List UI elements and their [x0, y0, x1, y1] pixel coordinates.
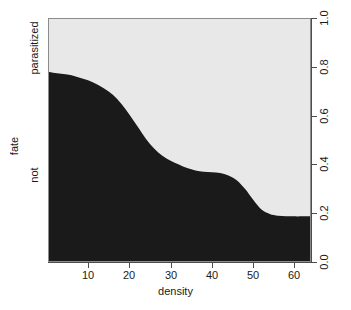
y-right-axis-line: [311, 18, 312, 263]
y-right-axis-tick-label: 0.0: [318, 254, 330, 269]
y-right-axis-tick: [312, 116, 317, 117]
y-right-axis-tick-label: 1.0: [318, 10, 330, 25]
y-right-axis-tick: [312, 213, 317, 214]
y-right-axis-tick: [312, 18, 317, 19]
x-axis-tick: [294, 263, 295, 268]
x-axis-tick: [212, 263, 213, 268]
x-axis-tick-label: 50: [238, 269, 268, 281]
y-left-category-label: parasitized: [28, 21, 40, 74]
x-axis-tick-label: 10: [73, 269, 103, 281]
y-right-axis-tick: [312, 262, 317, 263]
y-right-axis-tick-label: 0.2: [318, 205, 330, 220]
chart-figure: 102030405060 density 0.00.20.40.60.81.0 …: [0, 0, 351, 310]
x-axis-tick-label: 60: [279, 269, 309, 281]
y-right-axis-tick-label: 0.4: [318, 156, 330, 171]
y-right-axis-tick-label: 0.6: [318, 108, 330, 123]
x-axis-tick: [171, 263, 172, 268]
y-right-axis-tick-label: 0.8: [318, 59, 330, 74]
x-axis-tick-label: 20: [114, 269, 144, 281]
x-axis-tick-label: 30: [156, 269, 186, 281]
x-axis-tick: [88, 263, 89, 268]
conditional-density-area-svg: [48, 18, 311, 262]
area-band-not: [48, 72, 311, 262]
x-axis-title: density: [0, 285, 351, 297]
y-axis-title: fate: [8, 137, 20, 155]
y-left-category-label: not: [28, 167, 40, 182]
y-right-axis-tick: [312, 67, 317, 68]
y-right-axis-tick: [312, 164, 317, 165]
plot-area: [48, 18, 311, 262]
x-axis-tick: [129, 263, 130, 268]
x-axis-tick-label: 40: [197, 269, 227, 281]
x-axis-tick: [253, 263, 254, 268]
